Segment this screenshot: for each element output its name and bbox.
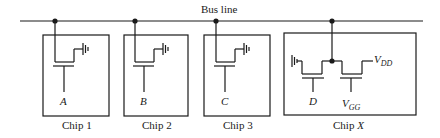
chip-3-box <box>204 35 270 116</box>
chip-1-label: Chip 1 <box>62 119 92 131</box>
vdd-label: VDD <box>374 53 393 68</box>
junction-dot <box>132 18 137 23</box>
chip-2 <box>124 21 188 116</box>
junction-dot <box>52 18 57 23</box>
vgg-label: VGG <box>342 97 361 112</box>
bus-diagram: Bus line A B C D VGG VDD Chip 1 Chip 2 C… <box>0 0 440 138</box>
junction-dot <box>213 18 218 23</box>
chip-3-input-label: C <box>221 95 229 107</box>
chip-2-label: Chip 2 <box>142 119 172 131</box>
chip-x <box>284 21 416 115</box>
chip-1-input-label: A <box>59 95 67 107</box>
bus-label: Bus line <box>201 3 237 15</box>
chip-1-box <box>43 35 109 116</box>
chip-2-input-label: B <box>140 95 147 107</box>
chip-x-d-label: D <box>308 95 317 107</box>
chip-2-box <box>124 35 188 116</box>
junction-dot <box>329 58 334 63</box>
chip-3 <box>204 21 270 116</box>
chip-x-label: Chip X <box>333 119 365 131</box>
chip-3-label: Chip 3 <box>223 119 253 131</box>
chip-1 <box>43 21 109 116</box>
junction-dot <box>329 18 334 23</box>
